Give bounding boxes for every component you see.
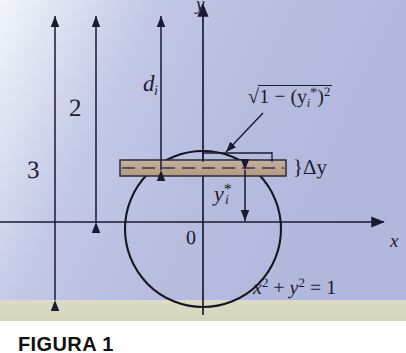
y-star-subscript: i bbox=[225, 192, 229, 207]
eq-plus: + bbox=[268, 277, 289, 299]
radicand-lead: 1 − (y bbox=[259, 86, 307, 108]
origin-label: 0 bbox=[186, 228, 196, 248]
circle-equation-label: x2 + y2 = 1 bbox=[253, 277, 336, 298]
d-i-subscript: i bbox=[154, 83, 158, 99]
depth-2-label: 2 bbox=[69, 96, 82, 121]
bottom-white-margin bbox=[0, 321, 406, 324]
delta-y-text: Δy bbox=[303, 155, 327, 179]
radicand-close-paren: ) bbox=[317, 86, 324, 108]
delta-y-label: }Δy bbox=[293, 157, 327, 178]
eq-x: x bbox=[253, 277, 262, 299]
figure-diagram bbox=[0, 0, 406, 324]
y-axis-label: y bbox=[196, 0, 204, 14]
radicand-exponent: 2 bbox=[324, 85, 330, 99]
depth-3-label: 3 bbox=[27, 158, 40, 183]
d-i-base: d bbox=[143, 71, 155, 96]
eq-equals-one: = 1 bbox=[305, 277, 336, 299]
brace-glyph: } bbox=[293, 155, 303, 179]
half-width-radical-label: √1 − (yi*)2 bbox=[248, 86, 332, 109]
figure-container: 3 2 di √1 − (yi*)2 }Δy y*i 0 x2 + y2 = 1… bbox=[0, 0, 406, 353]
figure-caption: FIGURA 1 bbox=[18, 333, 114, 353]
x-axis-label: x bbox=[390, 232, 398, 251]
y-star-label: y*i bbox=[214, 182, 229, 207]
y-star-base: y bbox=[214, 181, 224, 206]
radicand: 1 − (yi*)2 bbox=[258, 85, 332, 108]
d-i-label: di bbox=[143, 72, 158, 98]
